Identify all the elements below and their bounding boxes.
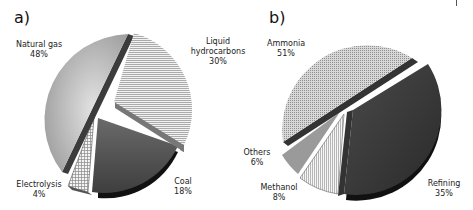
pie-a: [44, 33, 192, 198]
label-refining: Refining35%: [424, 179, 464, 199]
label-coal: Coal18%: [170, 177, 196, 197]
pie-charts-graphic: [0, 0, 473, 210]
panel-label-a: a): [14, 8, 30, 27]
label-others: Others6%: [242, 148, 272, 168]
label-ammonia: Ammonia51%: [266, 39, 306, 59]
pie-b: [282, 45, 441, 200]
label-natural-gas: Natural gas48%: [14, 40, 64, 60]
panel-label-b: b): [269, 8, 285, 27]
label-liquid-hydrocarbons: Liquidhydrocarbons30%: [190, 37, 246, 67]
label-electrolysis: Electrolysis4%: [14, 180, 64, 200]
label-methanol: Methanol8%: [258, 183, 300, 203]
